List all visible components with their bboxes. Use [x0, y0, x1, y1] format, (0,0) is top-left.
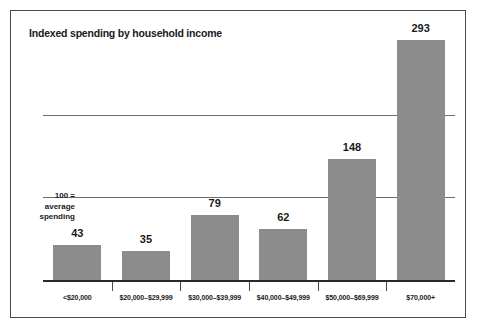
- bar-group: 148: [318, 11, 387, 280]
- chart-frame: Indexed spending by household income 100…: [10, 10, 466, 318]
- bar-value-label: 43: [71, 227, 83, 239]
- bar-group: 62: [249, 11, 318, 280]
- bar-value-label: 148: [343, 141, 361, 153]
- bar-group: 35: [112, 11, 181, 280]
- axis-tick: [249, 282, 250, 291]
- bar-value-label: 79: [209, 197, 221, 209]
- bar[interactable]: [122, 251, 170, 280]
- bar-group: 79: [180, 11, 249, 280]
- bar-value-label: 293: [411, 22, 429, 34]
- category-label: $70,000+: [406, 294, 435, 301]
- axis-tick: [386, 282, 387, 291]
- category-label: $40,000–$49,999: [257, 294, 310, 301]
- bar-group: 293: [386, 11, 455, 280]
- bar[interactable]: [328, 159, 376, 280]
- category-label: $20,000–$29,999: [120, 294, 173, 301]
- category-label: $30,000–$39,999: [188, 294, 241, 301]
- axis-tick: [180, 282, 181, 291]
- bar-group: 43: [43, 11, 112, 280]
- bar[interactable]: [53, 245, 101, 280]
- bars-container: 43357962148293: [43, 11, 455, 280]
- bar-value-label: 35: [140, 233, 152, 245]
- bar[interactable]: [397, 40, 445, 280]
- axis-tick: [318, 282, 319, 291]
- bar[interactable]: [191, 215, 239, 280]
- category-label: $50,000–$69,999: [326, 294, 379, 301]
- bar[interactable]: [259, 229, 307, 280]
- axis-tick: [112, 282, 113, 291]
- category-label: <$20,000: [63, 294, 92, 301]
- bar-value-label: 62: [277, 211, 289, 223]
